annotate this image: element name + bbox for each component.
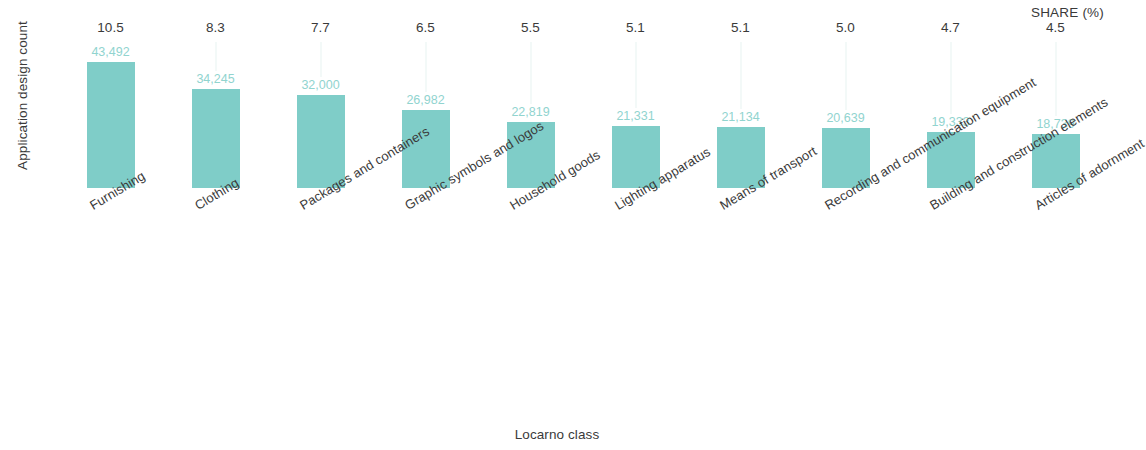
bar-value-label: 32,000	[297, 78, 345, 92]
bar-value-label: 26,982	[402, 93, 450, 107]
guide-line	[1055, 42, 1056, 116]
bar-column: 4.719,333	[927, 0, 975, 200]
share-percent-label: 7.7	[297, 20, 345, 35]
guide-line	[425, 42, 426, 92]
share-percent-label: 4.7	[927, 20, 975, 35]
share-percent-label: 10.5	[87, 20, 135, 35]
bar-column: 5.020,639	[822, 0, 870, 200]
bar-value-label: 21,331	[612, 109, 660, 123]
bar-column: 5.121,331	[612, 0, 660, 200]
guide-line	[110, 42, 111, 44]
share-percent-label: 6.5	[402, 20, 450, 35]
guide-line	[845, 42, 846, 110]
x-axis-title: Locarno class	[0, 427, 1114, 442]
guide-line	[215, 42, 216, 71]
share-percent-label: 5.1	[612, 20, 660, 35]
bar-column: 4.518,739	[1032, 0, 1080, 200]
bar-column: 6.526,982	[402, 0, 450, 200]
bar[interactable]	[87, 62, 135, 188]
bar[interactable]	[192, 89, 240, 188]
bar-column: 10.543,492	[87, 0, 135, 200]
y-axis-title: Application design count	[15, 0, 30, 196]
bar-value-label: 43,492	[87, 45, 135, 59]
share-percent-label: 5.1	[717, 20, 765, 35]
bar-column: 5.522,819	[507, 0, 555, 200]
bar-value-label: 22,819	[507, 105, 555, 119]
bar-column: 7.732,000	[297, 0, 345, 200]
guide-line	[320, 42, 321, 77]
bar-value-label: 20,639	[822, 111, 870, 125]
guide-line	[740, 42, 741, 109]
guide-line	[530, 42, 531, 104]
share-percent-label: 8.3	[192, 20, 240, 35]
bar-value-label: 21,134	[717, 110, 765, 124]
share-percent-label: 5.0	[822, 20, 870, 35]
bar-value-label: 34,245	[192, 72, 240, 86]
bar-column: 8.334,245	[192, 0, 240, 200]
bar[interactable]	[297, 95, 345, 188]
guide-line	[635, 42, 636, 108]
share-percent-label: 4.5	[1032, 20, 1080, 35]
guide-line	[950, 42, 951, 114]
bar-column: 5.121,134	[717, 0, 765, 200]
share-percent-label: 5.5	[507, 20, 555, 35]
